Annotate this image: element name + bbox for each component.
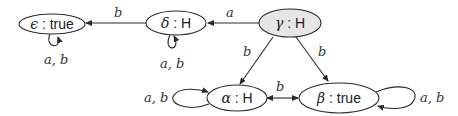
loop-beta: a, b: [376, 87, 444, 109]
loop-label: a, b: [160, 56, 184, 71]
node-epsilon: ϵ : true: [19, 14, 85, 34]
edge-gamma-beta: b: [296, 37, 328, 81]
node-symbol: β: [316, 90, 325, 106]
edge-label: b: [243, 44, 251, 59]
node-symbol: δ: [161, 15, 169, 31]
edge-gamma-alpha: b: [240, 37, 273, 84]
loop-label: a, b: [420, 90, 444, 105]
node-alpha: α : H: [207, 85, 267, 111]
loop-epsilon: a, b: [44, 34, 68, 67]
edge-alpha-beta: b: [267, 79, 298, 98]
edge-delta-epsilon: b: [86, 5, 146, 23]
loop-alpha: a, b: [144, 89, 209, 107]
node-value: : true: [325, 90, 361, 106]
edge-label: a: [226, 5, 234, 20]
svg-text:γ : H: γ : H: [275, 15, 305, 31]
node-delta: δ : H: [146, 11, 206, 35]
edge-gamma-delta: a: [208, 5, 259, 23]
node-gamma: γ : H: [259, 9, 321, 37]
node-value: : true: [38, 16, 74, 32]
svg-text:β : true: β : true: [316, 90, 361, 106]
edge-label: b: [114, 5, 122, 20]
node-symbol: ϵ: [30, 16, 38, 32]
node-beta: β : true: [299, 83, 379, 113]
node-value: : H: [283, 15, 305, 31]
loop-label: a, b: [44, 52, 68, 67]
loop-label: a, b: [144, 90, 168, 105]
svg-text:δ : H: δ : H: [161, 15, 191, 31]
svg-text:ϵ : true: ϵ : true: [30, 16, 74, 32]
svg-text:α : H: α : H: [221, 90, 252, 106]
loop-delta: a, b: [160, 35, 184, 71]
state-diagram: a b b b b a, b a, b a, b a, b ϵ : true: [0, 0, 458, 116]
node-value: : H: [169, 15, 191, 31]
node-value: : H: [231, 90, 253, 106]
edge-label: b: [318, 44, 326, 59]
edge-label: b: [276, 79, 284, 94]
